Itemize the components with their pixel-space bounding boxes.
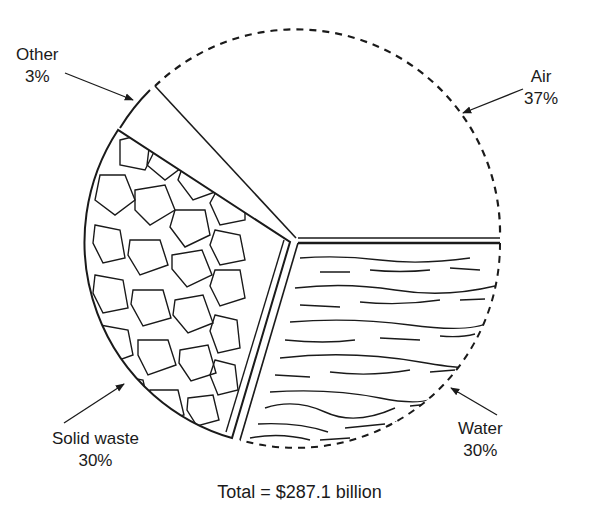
arrow-solid-waste — [64, 384, 124, 423]
arrow-water — [451, 388, 497, 415]
slice-solid-waste — [85, 130, 290, 438]
label-other: Other 3% — [16, 44, 59, 88]
slice-other — [120, 90, 150, 128]
total-caption: Total = $287.1 billion — [0, 482, 599, 503]
label-other-name: Other — [16, 44, 59, 66]
label-air-name: Air — [524, 66, 558, 88]
label-solid-waste: Solid waste 30% — [52, 428, 139, 472]
label-water-name: Water — [458, 418, 503, 440]
label-solid-waste-name: Solid waste — [52, 428, 139, 450]
label-other-pct: 3% — [16, 66, 59, 88]
arrow-air — [463, 89, 523, 113]
label-air: Air 37% — [524, 66, 558, 110]
label-water: Water 30% — [458, 418, 503, 462]
arrow-other — [65, 73, 133, 100]
label-air-pct: 37% — [524, 88, 558, 110]
label-water-pct: 30% — [458, 440, 503, 462]
label-solid-waste-pct: 30% — [52, 450, 139, 472]
